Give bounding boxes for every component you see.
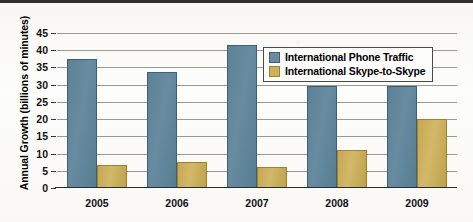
legend-item-skype: International Skype-to-Skype xyxy=(269,65,426,77)
bar-chart: Annual Growth (billions of minutes) 0510… xyxy=(0,0,473,222)
y-axis-tick-label: 5 xyxy=(42,165,48,177)
bar-phone-traffic[interactable] xyxy=(147,72,177,188)
bar-group: 2005 xyxy=(57,33,137,188)
bar-phone-traffic[interactable] xyxy=(227,45,257,188)
bar-skype-to-skype[interactable] xyxy=(257,167,287,188)
y-axis-tick xyxy=(51,67,56,68)
bar-skype-to-skype[interactable] xyxy=(97,165,127,188)
bar-phone-traffic[interactable] xyxy=(387,86,417,188)
x-axis-tick-label: 2005 xyxy=(85,197,108,209)
x-axis-tick-label: 2007 xyxy=(245,197,268,209)
chart-legend: International Phone Traffic Internationa… xyxy=(263,47,433,82)
y-axis-tick-label: 0 xyxy=(42,182,48,194)
x-axis-line xyxy=(55,187,457,189)
bar-phone-traffic[interactable] xyxy=(307,86,337,188)
y-axis-title: Annual Growth (billions of minutes) xyxy=(18,8,30,198)
y-axis-tick xyxy=(51,136,56,137)
y-axis-tick-label: 30 xyxy=(36,79,48,91)
y-axis-tick-label: 35 xyxy=(36,61,48,73)
x-axis-tick-label: 2008 xyxy=(325,197,348,209)
y-axis-tick xyxy=(51,119,56,120)
bar-skype-to-skype[interactable] xyxy=(337,150,367,188)
y-axis-tick-label: 25 xyxy=(36,96,48,108)
y-axis-tick xyxy=(51,171,56,172)
legend-swatch-phone-icon xyxy=(269,52,280,63)
bar-phone-traffic[interactable] xyxy=(67,59,97,188)
y-axis-tick xyxy=(51,154,56,155)
y-axis-tick-label: 10 xyxy=(36,148,48,160)
legend-label-skype: International Skype-to-Skype xyxy=(285,65,426,77)
y-axis-tick-label: 40 xyxy=(36,44,48,56)
x-axis-tick-label: 2006 xyxy=(165,197,188,209)
bar-skype-to-skype[interactable] xyxy=(177,162,207,188)
y-axis-tick-label: 15 xyxy=(36,130,48,142)
y-axis-tick xyxy=(51,33,56,34)
y-axis-tick xyxy=(51,188,56,189)
legend-label-phone: International Phone Traffic xyxy=(285,51,413,63)
bar-skype-to-skype[interactable] xyxy=(417,119,447,188)
y-axis-tick-label: 20 xyxy=(36,113,48,125)
y-axis-tick xyxy=(51,50,56,51)
y-axis-tick-label: 45 xyxy=(36,27,48,39)
bar-group: 2006 xyxy=(137,33,217,188)
legend-swatch-skype-icon xyxy=(269,66,280,77)
y-axis-tick xyxy=(51,102,56,103)
x-axis-tick-label: 2009 xyxy=(405,197,428,209)
legend-item-phone: International Phone Traffic xyxy=(269,51,426,63)
y-axis-tick xyxy=(51,85,56,86)
